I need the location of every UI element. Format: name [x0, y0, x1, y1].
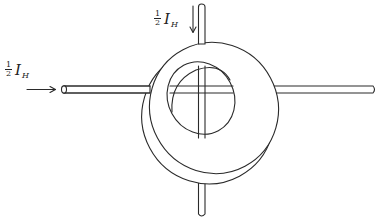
label-vertical-current: 1 2 IH — [154, 8, 178, 29]
fraction-denominator: 2 — [5, 70, 12, 78]
current-subscript: H — [171, 20, 178, 29]
toroid-diagram — [0, 0, 381, 221]
fraction-denominator: 2 — [154, 19, 161, 27]
arrow-vertical-current — [190, 6, 196, 33]
fraction-half: 1 2 — [5, 61, 12, 78]
label-horizontal-current: 1 2 IH — [5, 59, 29, 80]
toroid-ring — [118, 20, 301, 207]
horizontal-rod-right — [262, 86, 375, 93]
current-symbol: I — [15, 61, 21, 79]
current-symbol: I — [164, 10, 170, 28]
fraction-half: 1 2 — [154, 10, 161, 27]
current-subscript: H — [22, 71, 29, 80]
arrow-horizontal-current — [27, 87, 56, 93]
